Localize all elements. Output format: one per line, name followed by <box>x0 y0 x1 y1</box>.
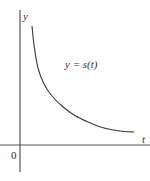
chart-figure: y t 0 y = s(t) <box>0 0 150 181</box>
x-axis-label: t <box>142 133 146 145</box>
chart-svg: y t 0 y = s(t) <box>0 0 150 181</box>
y-axis-label: y <box>22 10 28 22</box>
curve-y-equals-s-of-t <box>32 26 134 132</box>
origin-label: 0 <box>11 149 17 161</box>
curve-label: y = s(t) <box>64 58 98 71</box>
